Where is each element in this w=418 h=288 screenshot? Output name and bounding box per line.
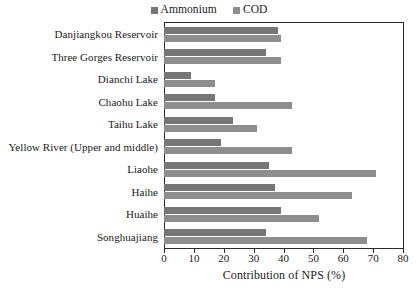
bar-group <box>164 23 403 46</box>
bar-group <box>164 203 403 226</box>
bar-ammonium <box>164 139 221 146</box>
bar-group <box>164 136 403 159</box>
y-axis-label: Dianchi Lake <box>0 68 161 91</box>
bar-group <box>164 91 403 114</box>
y-axis-labels: Danjiangkou ReservoirThree Gorges Reserv… <box>0 23 161 248</box>
legend-entry-ammonium: Ammonium <box>151 4 217 16</box>
y-axis-label: Yellow River (Upper and middle) <box>0 136 161 159</box>
legend-swatch-cod <box>233 7 240 14</box>
x-tick-label: 40 <box>278 252 289 264</box>
bar-cod <box>164 170 376 177</box>
bar-group <box>164 68 403 91</box>
x-tick-label: 80 <box>398 252 409 264</box>
legend-swatch-ammonium <box>151 7 158 14</box>
x-tick-label: 0 <box>161 252 167 264</box>
bar-cod <box>164 80 215 87</box>
x-tick-label: 60 <box>338 252 349 264</box>
x-tick-label: 20 <box>218 252 229 264</box>
bar-rows <box>164 23 403 248</box>
bar-ammonium <box>164 27 278 34</box>
bar-cod <box>164 192 352 199</box>
bar-cod <box>164 147 292 154</box>
y-axis-label: Liaohe <box>0 158 161 181</box>
bar-cod <box>164 35 281 42</box>
bar-ammonium <box>164 49 266 56</box>
legend-label-ammonium: Ammonium <box>161 4 217 16</box>
bar-group <box>164 226 403 249</box>
x-axis-title: Contribution of NPS (%) <box>164 268 404 283</box>
bar-cod <box>164 237 367 244</box>
bar-cod <box>164 125 257 132</box>
bar-group <box>164 181 403 204</box>
bar-group <box>164 46 403 69</box>
bar-ammonium <box>164 117 233 124</box>
y-axis-label: Songhuajiang <box>0 226 161 249</box>
bar-group <box>164 158 403 181</box>
bar-cod <box>164 102 292 109</box>
bar-ammonium <box>164 207 281 214</box>
x-tick-label: 10 <box>188 252 199 264</box>
bar-ammonium <box>164 229 266 236</box>
bar-ammonium <box>164 94 215 101</box>
y-axis-label: Danjiangkou Reservoir <box>0 23 161 46</box>
x-tick-label: 30 <box>248 252 259 264</box>
bar-ammonium <box>164 184 275 191</box>
legend-label-cod: COD <box>243 4 268 16</box>
chart-legend: Ammonium COD <box>0 1 418 19</box>
x-tick-label: 70 <box>368 252 379 264</box>
y-axis-label: Three Gorges Reservoir <box>0 46 161 69</box>
bar-group <box>164 113 403 136</box>
bar-ammonium <box>164 72 191 79</box>
x-axis-tick-labels: 01020304050607080 <box>164 252 404 266</box>
bar-chart-figure: Ammonium COD Danjiangkou ReservoirThree … <box>0 0 418 288</box>
x-tick-label: 50 <box>308 252 319 264</box>
bar-ammonium <box>164 162 269 169</box>
y-axis-label: Taihu Lake <box>0 113 161 136</box>
y-axis-label: Haihe <box>0 181 161 204</box>
bar-cod <box>164 215 319 222</box>
y-axis-label: Chaohu Lake <box>0 91 161 114</box>
bar-cod <box>164 57 281 64</box>
y-axis-label: Huaihe <box>0 203 161 226</box>
legend-entry-cod: COD <box>233 4 268 16</box>
